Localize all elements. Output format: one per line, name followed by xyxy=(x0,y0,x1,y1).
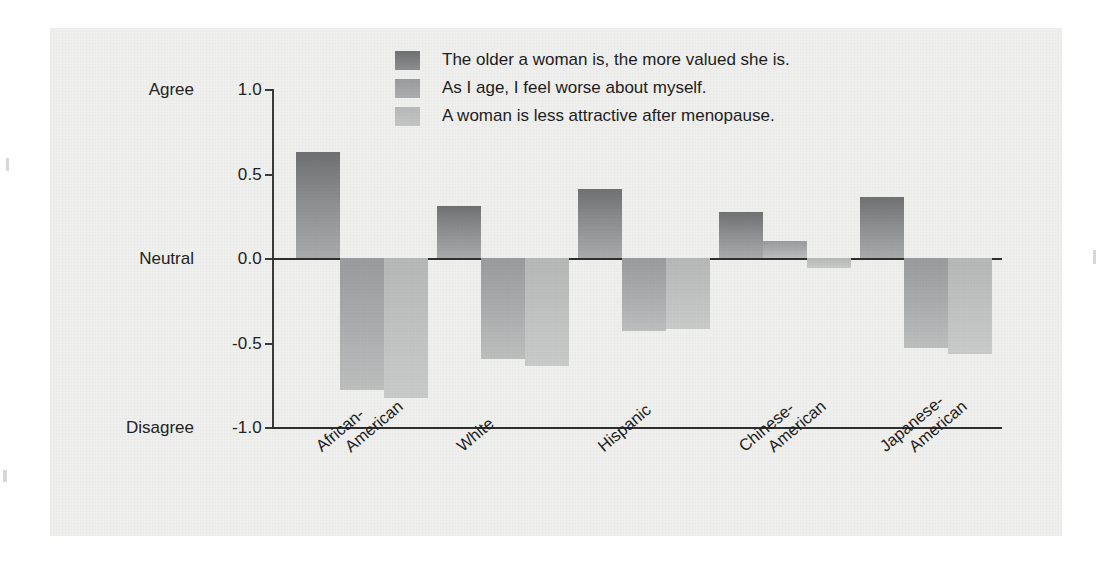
bar-japanese-american-series-0 xyxy=(860,197,904,258)
bar-chinese-american-series-2 xyxy=(807,258,851,268)
legend-item-0: The older a woman is, the more valued sh… xyxy=(395,46,915,74)
y-tick-label-0.5: 0.5 xyxy=(238,165,262,185)
y-tick-0.5 xyxy=(265,174,272,176)
y-axis-tick-labels: 1.0 0.5 0.0 -0.5 -1.0 xyxy=(206,89,262,429)
scan-artifact-left-top xyxy=(6,158,9,171)
bar-hispanic-series-1 xyxy=(622,258,666,331)
y-tick-1.0 xyxy=(265,89,272,91)
scan-artifact-right xyxy=(1093,250,1096,264)
scan-artifact-left-bottom xyxy=(3,470,7,482)
bar-african-american-series-2 xyxy=(384,258,428,398)
bar-japanese-american-series-2 xyxy=(948,258,992,354)
y-tick-label--1.0: -1.0 xyxy=(232,418,262,438)
bar-white-series-0 xyxy=(437,206,481,258)
y-word-neutral: Neutral xyxy=(139,249,194,269)
bar-chinese-american-series-1 xyxy=(763,241,807,258)
y-tick--0.5 xyxy=(265,343,272,345)
y-word-disagree: Disagree xyxy=(126,418,194,438)
y-tick-label-1.0: 1.0 xyxy=(238,80,262,100)
bar-hispanic-series-0 xyxy=(578,189,622,258)
bar-african-american-series-1 xyxy=(340,258,384,390)
bar-chinese-american-series-0 xyxy=(719,212,763,258)
legend-label-0: The older a woman is, the more valued sh… xyxy=(442,50,790,70)
plot-area: African-AmericanWhiteHispanicChinese-Ame… xyxy=(272,89,1002,429)
legend-swatch-icon-0 xyxy=(395,51,420,70)
x-axis-label-1: White xyxy=(453,414,498,456)
y-tick--1.0 xyxy=(265,427,272,429)
bar-white-series-1 xyxy=(481,258,525,359)
y-tick-0.0 xyxy=(265,258,272,260)
bar-hispanic-series-2 xyxy=(666,258,710,329)
bar-japanese-american-series-1 xyxy=(904,258,948,348)
y-tick-label--0.5: -0.5 xyxy=(232,334,262,354)
chart-figure-panel: The older a woman is, the more valued sh… xyxy=(50,28,1062,536)
y-tick-label-0.0: 0.0 xyxy=(238,249,262,269)
y-axis-word-labels: Agree Neutral Disagree xyxy=(84,89,194,429)
y-word-agree: Agree xyxy=(149,80,194,100)
bar-white-series-2 xyxy=(525,258,569,366)
bar-african-american-series-0 xyxy=(296,152,340,258)
